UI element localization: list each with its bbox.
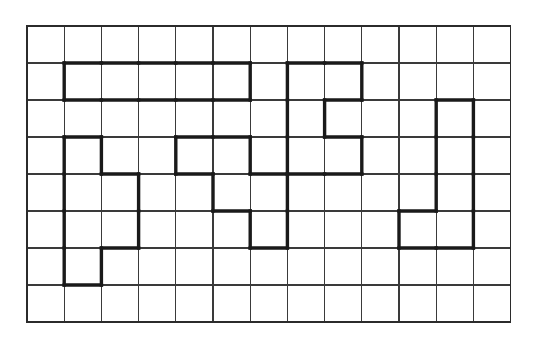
shape-i-pentomino-horizontal-top-left (64, 63, 250, 100)
grid-and-shapes-svg (0, 0, 535, 343)
shape-z-shape-center (176, 137, 288, 248)
puzzle-canvas (0, 0, 535, 343)
